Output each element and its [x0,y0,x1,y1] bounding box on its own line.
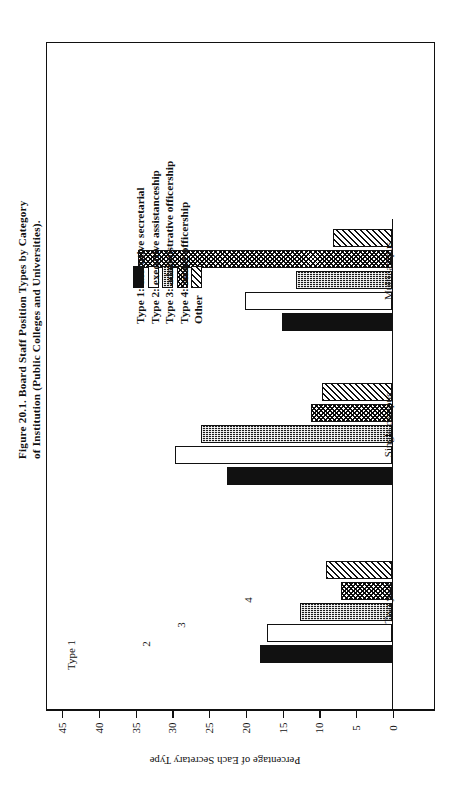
axis-tick-label: 10 [313,717,325,739]
axis-tick-label: 45 [56,717,68,739]
bar [245,292,392,310]
axis-tick-label: 5 [350,717,362,739]
bar [267,624,392,642]
category-label: Single campus [382,377,394,473]
axis-tick-label: 0 [387,717,399,739]
bar [282,313,392,331]
legend-label: Type 2: executive assistanceship [148,186,162,324]
legend-item: Type 3: administrative officership [162,103,176,288]
legend: Type 1: executive secretarialType 2: exe… [133,103,213,288]
annotation-2: 2 [140,631,152,657]
annotation-4: 4 [242,587,254,613]
plot-area: Two yearSingle campusMulticampus Type 1 … [47,43,434,709]
legend-item: Other [191,103,205,288]
bar [311,404,392,422]
legend-item: Type 1: executive secretarial [133,103,147,288]
category-label: Two year [382,555,394,651]
legend-label: Type 4: senior officership [177,186,191,324]
bar [296,271,392,289]
bar [300,603,392,621]
bar [175,446,392,464]
axis-tick-label: 30 [166,717,178,739]
annotation-type-1: Type 1 [65,627,77,683]
chart-frame: Two yearSingle campusMulticampus Type 1 … [46,42,435,710]
legend-item: Type 2: executive assistanceship [148,103,162,288]
legend-label: Type 3: administrative officership [162,186,176,324]
value-axis-rule [46,710,435,711]
axis-tick-label: 25 [203,717,215,739]
legend-item: Type 4: senior officership [177,103,191,288]
figure-caption: Figure 20.1. Board Staff Position Types … [15,159,49,459]
bar [260,645,392,663]
legend-label: Other [191,186,205,324]
bar [201,425,392,443]
axis-tick-label: 15 [277,717,289,739]
axis-tick-label: 20 [240,717,252,739]
legend-label: Type 1: executive secretarial [133,186,147,324]
annotation-3: 3 [175,612,187,638]
axis-tick-label: 35 [130,717,142,739]
value-axis-title: Percentage of Each Secretary Type [100,755,350,767]
category-label: Multicampus [382,223,394,319]
bar [227,467,393,485]
axis-tick-label: 40 [93,717,105,739]
